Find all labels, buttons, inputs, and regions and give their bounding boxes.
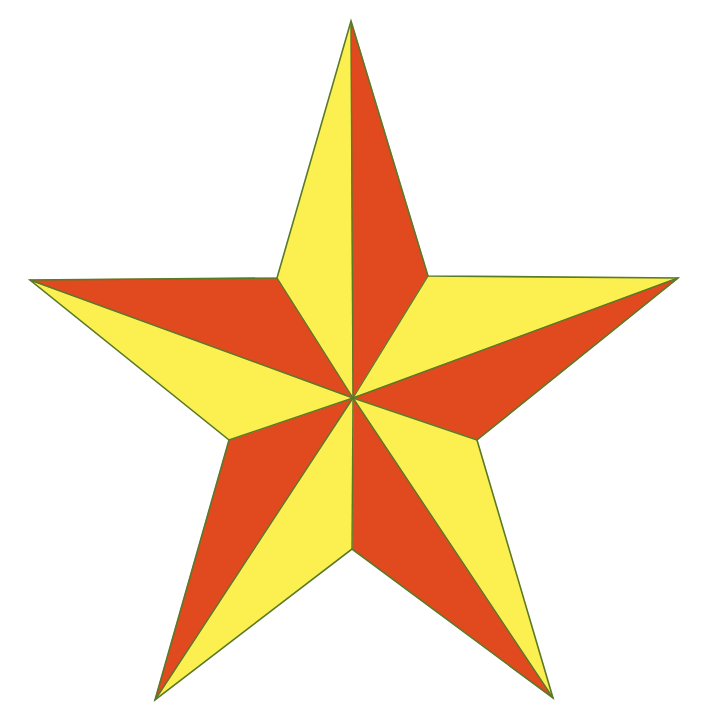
star-canvas <box>0 0 702 727</box>
star-facets <box>30 21 678 700</box>
ridge-line <box>352 398 353 549</box>
nautical-star-icon <box>0 0 702 727</box>
